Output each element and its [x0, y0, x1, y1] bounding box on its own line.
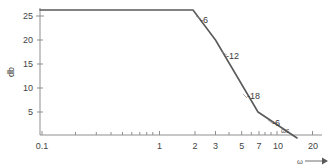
y-axis-title: db	[6, 67, 16, 77]
x-axis-tick-labels: 0.1 1 2 3 5 7 10 20	[36, 141, 318, 151]
x-axis-arrow-group: ω	[297, 157, 328, 166]
y-tick-label-15: 15	[23, 59, 33, 69]
slope-leader-lines	[196, 16, 272, 123]
x-axis-major-ticks	[42, 131, 313, 135]
x-tick-label-7: 7	[256, 141, 261, 151]
slope-label-minus-18: -18	[247, 91, 260, 101]
x-tick-label-1: 1	[157, 141, 162, 151]
x-tick-label-20: 20	[308, 141, 318, 151]
slope-label-minus-6-second: -6	[272, 118, 280, 128]
slope-label-minus-6-first: -6	[200, 15, 208, 25]
bode-plot-figure: 25 20 15 10 5 db	[0, 0, 329, 168]
y-axis-tick-labels: 25 20 15 10 5	[23, 11, 33, 117]
x-tick-label-5: 5	[239, 141, 244, 151]
axis-lines	[40, 8, 322, 135]
x-tick-label-10: 10	[273, 141, 283, 151]
magnitude-asymptote-line	[40, 10, 297, 138]
x-axis-title-omega: ω	[297, 157, 303, 166]
bode-plot-svg: 25 20 15 10 5 db	[0, 0, 329, 168]
x-tick-label-0-1: 0.1	[36, 141, 49, 151]
x-tick-label-2: 2	[192, 141, 197, 151]
y-tick-label-5: 5	[28, 107, 33, 117]
crossover-frequency-label: ωc	[281, 127, 290, 134]
y-tick-label-25: 25	[23, 11, 33, 21]
x-axis-arrow-head	[322, 158, 328, 165]
bode-magnitude-curve	[40, 10, 297, 138]
slope-annotations: -6 -12 -18 -6 ωc	[200, 15, 290, 134]
slope-label-minus-12: -12	[226, 51, 239, 61]
x-tick-label-3: 3	[213, 141, 218, 151]
y-tick-label-20: 20	[23, 35, 33, 45]
y-tick-label-10: 10	[23, 83, 33, 93]
